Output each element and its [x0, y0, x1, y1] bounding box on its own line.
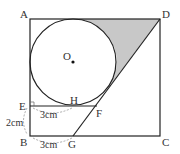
- measure-eh: 3cm: [40, 109, 57, 120]
- measure-bg: 3cm: [40, 139, 57, 150]
- label-o: O: [63, 50, 71, 62]
- label-c: C: [162, 136, 169, 148]
- measure-eb: 2cm: [6, 117, 23, 128]
- label-d: D: [162, 8, 170, 20]
- center-point-o: [71, 60, 74, 63]
- label-b: B: [20, 136, 27, 148]
- geometry-diagram: A D B C E H F G O 3cm 2cm 3cm: [0, 0, 180, 154]
- label-a: A: [20, 8, 28, 20]
- label-f: F: [96, 107, 102, 119]
- label-e: E: [19, 100, 26, 112]
- label-h: H: [70, 94, 78, 106]
- label-g: G: [68, 138, 76, 150]
